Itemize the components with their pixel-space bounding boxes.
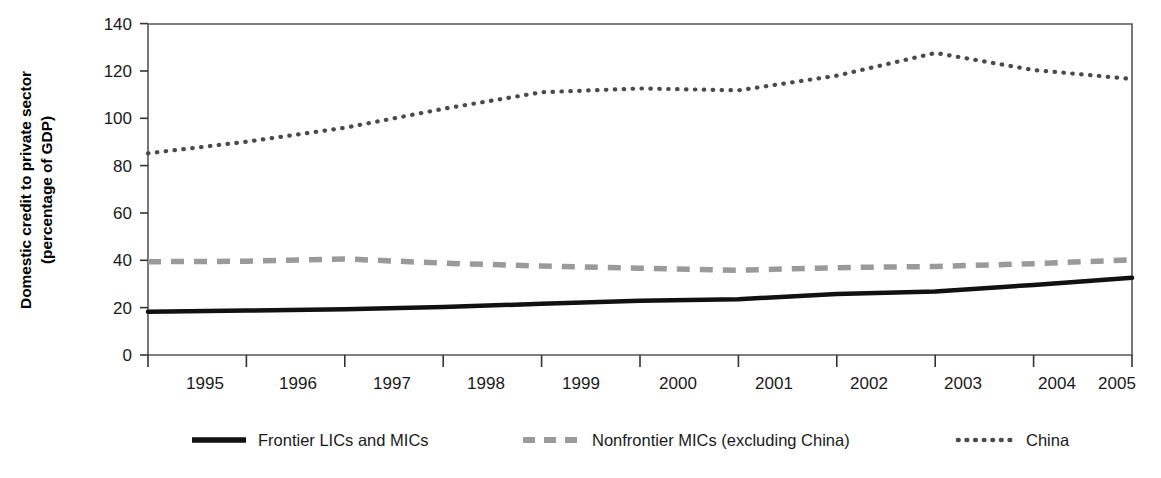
x-axis-ticks <box>148 355 1132 367</box>
legend-label-nonfrontier: Nonfrontier MICs (excluding China) <box>592 431 850 449</box>
y-axis-tick-labels: 140 120 100 80 60 40 20 0 <box>104 15 132 365</box>
x-tick-label-1997: 1997 <box>373 374 411 393</box>
series-line-frontier-lics-and-mics <box>148 278 1132 312</box>
chart-legend: Frontier LICs and MICs Nonfrontier MICs … <box>192 431 1070 449</box>
y-tick-label-60: 60 <box>113 204 132 223</box>
y-axis-title: Domestic credit to private sector (perce… <box>17 71 55 309</box>
legend-item-frontier-lics-and-mics[interactable]: Frontier LICs and MICs <box>192 431 429 449</box>
x-tick-label-2005: 2005 <box>1098 374 1136 393</box>
series-line-nonfrontier-mics <box>148 259 1132 270</box>
x-tick-label-1995: 1995 <box>186 374 224 393</box>
x-tick-label-2001: 2001 <box>755 374 793 393</box>
y-axis-title-line1: Domestic credit to private sector <box>17 71 34 309</box>
y-axis-title-line2: (percentage of GDP) <box>38 116 55 264</box>
chart-figure: Domestic credit to private sector (perce… <box>0 0 1161 478</box>
y-tick-label-40: 40 <box>113 251 132 270</box>
y-tick-label-140: 140 <box>104 15 132 34</box>
series-line-china <box>148 53 1132 153</box>
x-tick-label-2002: 2002 <box>850 374 888 393</box>
plot-frame <box>148 24 1132 355</box>
series-lines <box>148 53 1132 312</box>
legend-item-china[interactable]: China <box>958 431 1070 449</box>
y-axis-ticks <box>140 24 148 355</box>
y-tick-label-120: 120 <box>104 62 132 81</box>
y-tick-label-80: 80 <box>113 157 132 176</box>
y-tick-label-20: 20 <box>113 299 132 318</box>
x-tick-label-1999: 1999 <box>562 374 600 393</box>
x-tick-label-2003: 2003 <box>944 374 982 393</box>
x-tick-label-2000: 2000 <box>659 374 697 393</box>
legend-item-nonfrontier-mics[interactable]: Nonfrontier MICs (excluding China) <box>523 431 850 449</box>
line-chart: Domestic credit to private sector (perce… <box>0 0 1161 478</box>
x-tick-label-1998: 1998 <box>467 374 505 393</box>
x-tick-label-1996: 1996 <box>279 374 317 393</box>
legend-label-china: China <box>1026 431 1070 449</box>
y-tick-label-100: 100 <box>104 109 132 128</box>
legend-label-frontier: Frontier LICs and MICs <box>258 431 429 449</box>
y-tick-label-0: 0 <box>123 346 132 365</box>
x-tick-label-2004: 2004 <box>1038 374 1076 393</box>
x-axis-tick-labels: 1995 1996 1997 1998 1999 2000 2001 2002 … <box>186 374 1136 393</box>
